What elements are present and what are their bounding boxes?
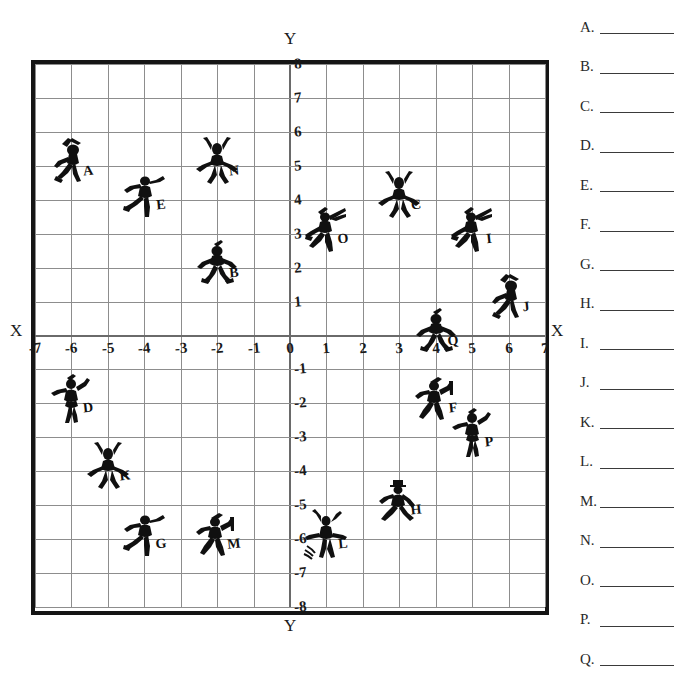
- answer-letter: G.: [570, 256, 600, 273]
- x-tick-label: -1: [247, 340, 261, 356]
- answer-row[interactable]: G.: [570, 255, 692, 273]
- answer-row[interactable]: L.: [570, 453, 692, 471]
- axis-label-x-left: X: [10, 322, 22, 339]
- gridline-horizontal: [35, 234, 545, 235]
- answer-blank-field[interactable]: [600, 98, 674, 113]
- answer-row[interactable]: A.: [570, 18, 692, 36]
- answer-row[interactable]: D.: [570, 137, 692, 155]
- answer-row[interactable]: K.: [570, 413, 692, 431]
- figure-label-b: B: [229, 264, 240, 281]
- answer-blank-field[interactable]: [600, 612, 674, 627]
- answer-letter: D.: [570, 137, 600, 154]
- y-tick-label: -6: [293, 531, 307, 547]
- figure-label-j: J: [521, 298, 530, 315]
- y-tick-label: 7: [293, 90, 302, 106]
- answer-row[interactable]: C.: [570, 97, 692, 115]
- answer-row[interactable]: P.: [570, 611, 692, 629]
- answer-row[interactable]: Q.: [570, 650, 692, 668]
- gridline-horizontal: [35, 132, 545, 133]
- answer-blank-field[interactable]: [600, 256, 674, 271]
- answer-list: A.B.C.D.E.F.G.H.I.J.K.L.M.N.O.P.Q.: [570, 0, 692, 694]
- answer-blank-field[interactable]: [600, 414, 674, 429]
- y-tick-label: -1: [293, 361, 307, 377]
- x-tick-label: -3: [174, 340, 188, 356]
- gridline-horizontal: [35, 302, 545, 303]
- answer-letter: K.: [570, 414, 600, 431]
- answer-row[interactable]: O.: [570, 571, 692, 589]
- answer-letter: F.: [570, 216, 600, 233]
- answer-row[interactable]: B.: [570, 58, 692, 76]
- gridline-horizontal: [35, 471, 545, 472]
- gridline-horizontal: [35, 64, 545, 65]
- answer-letter: E.: [570, 177, 600, 194]
- y-tick-label: -8: [293, 599, 307, 615]
- answer-blank-field[interactable]: [600, 651, 674, 666]
- x-tick-label: -6: [65, 340, 79, 356]
- y-tick-label: -2: [293, 395, 307, 411]
- answer-blank-field[interactable]: [600, 375, 674, 390]
- y-tick-label: -7: [293, 565, 307, 581]
- answer-letter: C.: [570, 98, 600, 115]
- answer-row[interactable]: F.: [570, 216, 692, 234]
- x-tick-label: -5: [101, 340, 115, 356]
- answer-blank-field[interactable]: [600, 335, 674, 350]
- answer-blank-field[interactable]: [600, 296, 674, 311]
- answer-blank-field[interactable]: [600, 59, 674, 74]
- x-tick-label: 5: [468, 340, 477, 356]
- figure-label-f: F: [448, 400, 458, 417]
- answer-blank-field[interactable]: [600, 533, 674, 548]
- gridline-vertical: [545, 64, 546, 607]
- figure-label-o: O: [337, 230, 350, 247]
- answer-row[interactable]: E.: [570, 176, 692, 194]
- answer-blank-field[interactable]: [600, 217, 674, 232]
- answer-blank-field[interactable]: [600, 177, 674, 192]
- y-tick-label: 5: [293, 158, 302, 174]
- answer-letter: Q.: [570, 651, 600, 668]
- answer-letter: I.: [570, 335, 600, 352]
- x-tick-label: 2: [358, 340, 367, 356]
- answer-blank-field[interactable]: [600, 493, 674, 508]
- answer-blank-field[interactable]: [600, 572, 674, 587]
- answer-row[interactable]: M.: [570, 492, 692, 510]
- answer-letter: J.: [570, 374, 600, 391]
- y-tick-label: 4: [293, 192, 302, 208]
- y-tick-label: -4: [293, 463, 307, 479]
- gridline-horizontal: [35, 505, 545, 506]
- figure-label-d: D: [83, 400, 95, 417]
- figure-label-a: A: [83, 162, 95, 179]
- answer-blank-field[interactable]: [600, 138, 674, 153]
- figure-label-g: G: [155, 536, 168, 553]
- figure-label-p: P: [484, 434, 494, 451]
- answer-letter: N.: [570, 532, 600, 549]
- y-tick-label: 2: [293, 260, 302, 276]
- figure-label-n: N: [228, 162, 240, 179]
- answer-letter: A.: [570, 19, 600, 36]
- figure-label-q: Q: [446, 332, 459, 349]
- answer-blank-field[interactable]: [600, 19, 674, 34]
- answer-row[interactable]: J.: [570, 374, 692, 392]
- x-tick-label: 0: [286, 340, 295, 356]
- x-tick-label: 7: [541, 340, 550, 356]
- x-axis-line: [35, 335, 545, 337]
- answer-letter: H.: [570, 295, 600, 312]
- answer-row[interactable]: H.: [570, 295, 692, 313]
- grid-lines: [35, 64, 545, 607]
- answer-row[interactable]: N.: [570, 532, 692, 550]
- gridline-horizontal: [35, 607, 545, 608]
- figure-label-e: E: [156, 196, 167, 213]
- coordinate-graph: -7-6-5-4-3-2-10123456787654321-1-2-3-4-5…: [0, 0, 570, 694]
- answer-row[interactable]: I.: [570, 334, 692, 352]
- gridline-horizontal: [35, 98, 545, 99]
- y-tick-label: 6: [293, 124, 302, 140]
- grid-wrapper: -7-6-5-4-3-2-10123456787654321-1-2-3-4-5…: [35, 64, 545, 607]
- axis-label-x-right: X: [551, 322, 563, 339]
- y-tick-label: -3: [293, 429, 307, 445]
- axis-label-y-top: Y: [284, 30, 296, 47]
- gridline-horizontal: [35, 200, 545, 201]
- x-tick-label: -7: [28, 340, 42, 356]
- answer-letter: B.: [570, 58, 600, 75]
- answer-blank-field[interactable]: [600, 454, 674, 469]
- gridline-horizontal: [35, 437, 545, 438]
- y-tick-label: 1: [293, 294, 302, 310]
- y-tick-label: 3: [293, 226, 302, 242]
